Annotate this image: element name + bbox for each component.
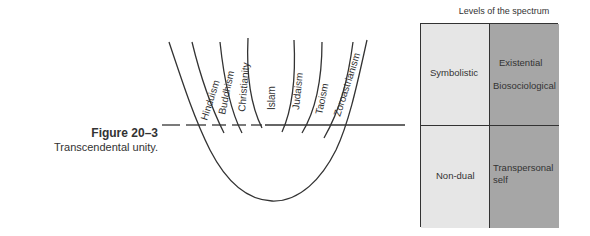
label-judaism: Judaism — [290, 72, 305, 110]
cell-label: Non-dual — [436, 170, 475, 181]
cell-label: Biosociological — [493, 80, 556, 91]
cell-transpersonal-self: Transpersonal self — [490, 126, 559, 228]
label-islam: Islam — [266, 86, 277, 110]
cell-label: Symbolistic — [430, 67, 478, 78]
cell-existential-biosociological: Existential Biosociological — [490, 24, 559, 126]
label-buddhism: Buddhism — [216, 70, 236, 116]
cell-label: Transpersonal — [493, 162, 553, 173]
cell-label: self — [493, 174, 508, 185]
unity-basin — [169, 40, 367, 201]
cell-label: Existential — [499, 57, 542, 68]
label-christianity: Christianity — [236, 62, 251, 112]
label-taoism: Taoism — [313, 82, 330, 115]
cell-symbolistic: Symbolistic — [421, 24, 490, 126]
spectrum-title: Levels of the spectrum — [419, 6, 589, 16]
spectrum-grid: Symbolistic Existential Biosociological … — [420, 23, 558, 227]
cell-non-dual: Non-dual — [421, 126, 490, 228]
label-zoroastrianism: Zoroastrianism — [331, 51, 362, 117]
